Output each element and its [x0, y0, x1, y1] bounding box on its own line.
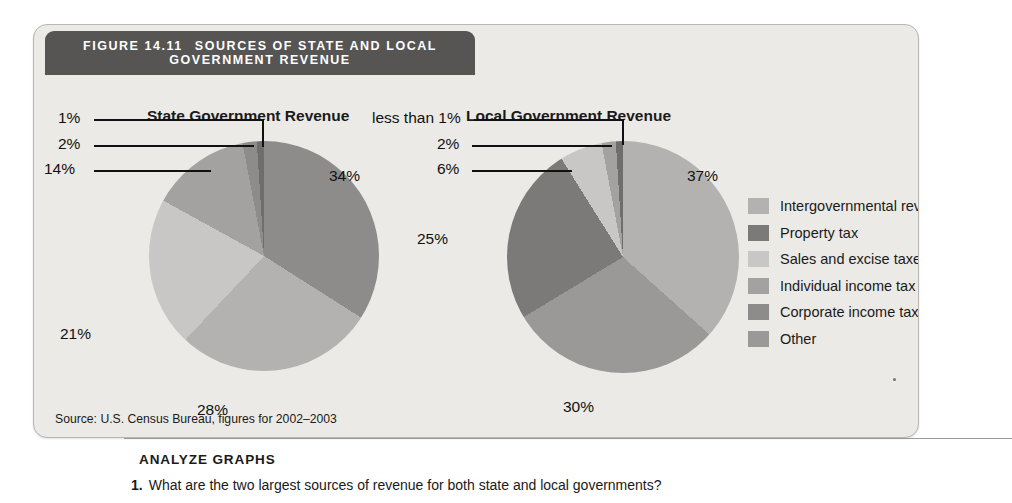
local-label-25pct: 25%: [417, 230, 448, 248]
section-divider: [124, 438, 1012, 439]
state-label-2pct: 2%: [58, 135, 80, 153]
analyze-graphs-heading: ANALYZE GRAPHS: [139, 452, 276, 467]
local-leader-lessthan1pct-drop: [622, 119, 624, 145]
state-label-1pct: 1%: [58, 109, 80, 127]
legend-item-label: Intergovernmental revenue: [780, 198, 919, 214]
local-chart-title: Local Government Revenue: [466, 107, 671, 125]
figure-title-line2: GOVERNMENT REVENUE: [83, 53, 437, 67]
legend-item-property-tax: Property tax: [748, 220, 919, 247]
legend-swatch-icon: [748, 225, 769, 241]
local-leader-2pct: [472, 145, 612, 147]
local-leader-6pct: [472, 170, 572, 172]
legend: Intergovernmental revenue Property tax S…: [748, 193, 919, 352]
legend-item-label: Corporate income tax: [780, 304, 919, 320]
state-leader-14pct: [94, 170, 211, 172]
state-leader-1pct: [94, 119, 264, 121]
local-label-37pct: 37%: [687, 167, 718, 185]
local-label-6pct: 6%: [437, 160, 459, 178]
state-leader-1pct-drop: [262, 119, 264, 147]
source-note: Source: U.S. Census Bureau, figures for …: [55, 412, 337, 426]
legend-swatch-icon: [748, 304, 769, 320]
figure-number: FIGURE 14.11: [83, 39, 183, 53]
figure-panel: FIGURE 14.11SOURCES OF STATE AND LOCAL G…: [33, 24, 919, 438]
local-label-2pct: 2%: [437, 135, 459, 153]
state-label-34pct: 34%: [329, 167, 360, 185]
legend-swatch-icon: [748, 198, 769, 214]
state-label-14pct: 14%: [44, 160, 75, 178]
analyze-question: 1. What are the two largest sources of r…: [131, 477, 662, 493]
legend-item-label: Individual income tax: [780, 278, 915, 294]
legend-item-label: Sales and excise taxes: [780, 251, 919, 267]
legend-item-sales-and-excise-taxes: Sales and excise taxes: [748, 246, 919, 273]
state-chart-title: State Government Revenue: [147, 107, 349, 125]
legend-swatch-icon: [748, 331, 769, 347]
legend-swatch-icon: [748, 278, 769, 294]
legend-item-label: Property tax: [780, 225, 858, 241]
legend-item-label: Other: [780, 331, 816, 347]
local-leader-lessthan1pct: [474, 119, 624, 121]
question-number: 1.: [131, 477, 143, 493]
local-label-lessthan1pct: less than 1%: [372, 109, 461, 127]
state-label-21pct: 21%: [60, 325, 91, 343]
legend-swatch-icon: [748, 251, 769, 267]
figure-header: FIGURE 14.11SOURCES OF STATE AND LOCAL G…: [45, 31, 475, 75]
legend-item-other: Other: [748, 326, 919, 353]
stray-dot: [893, 378, 896, 381]
legend-item-intergovernmental-revenue: Intergovernmental revenue: [748, 193, 919, 220]
legend-item-individual-income-tax: Individual income tax: [748, 273, 919, 300]
local-label-30pct: 30%: [563, 398, 594, 416]
chart-area: State Government Revenue 1% 2% 14% 34% 2…: [34, 75, 918, 438]
figure-title-line1: SOURCES OF STATE AND LOCAL: [195, 39, 437, 53]
legend-item-corporate-income-tax: Corporate income tax: [748, 299, 919, 326]
question-text: What are the two largest sources of reve…: [149, 477, 662, 493]
state-leader-2pct: [94, 145, 254, 147]
